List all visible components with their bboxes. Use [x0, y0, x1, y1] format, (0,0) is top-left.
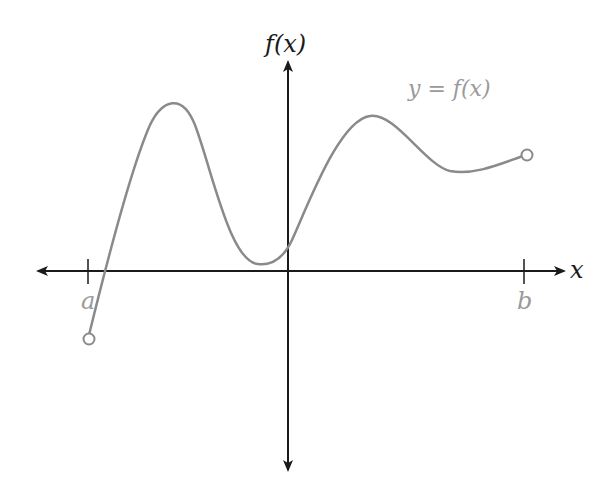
x-axis-label: x: [570, 256, 584, 284]
right-open-endpoint: [522, 150, 533, 161]
y-axis-label: f(x): [263, 30, 306, 58]
endpoint-a-label: a: [81, 287, 95, 315]
graph-canvas: f(x) x y = f(x) a b: [0, 0, 611, 500]
function-curve: [89, 103, 523, 335]
curve-label: y = f(x): [407, 76, 491, 101]
endpoint-b-label: b: [517, 287, 532, 315]
left-open-endpoint: [84, 334, 95, 345]
